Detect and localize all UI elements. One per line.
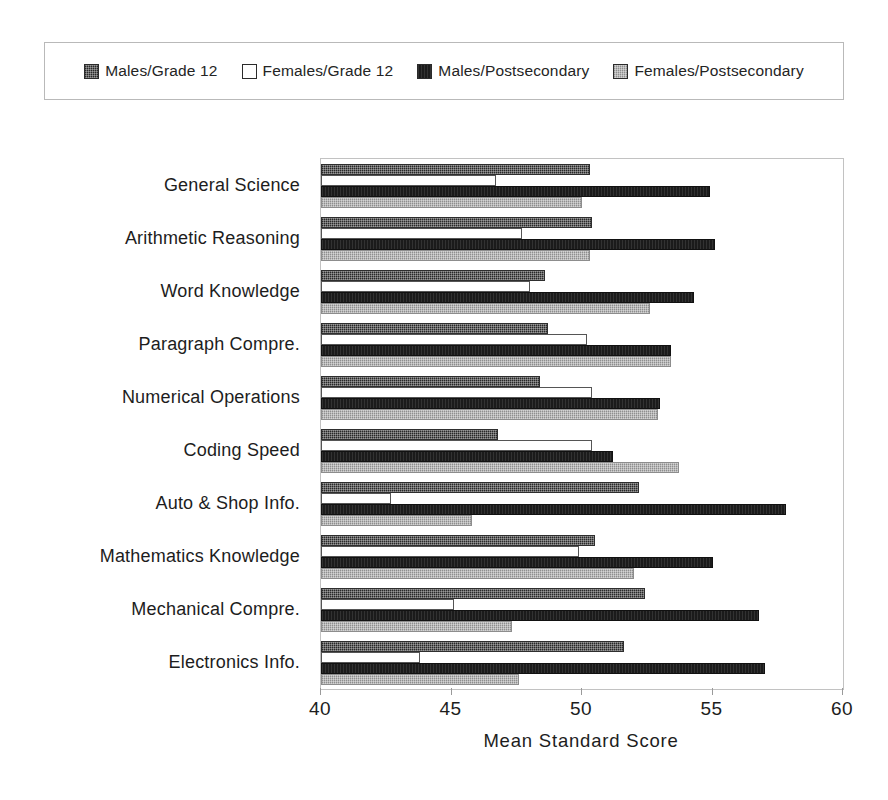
bar: [321, 482, 639, 493]
category-label: Coding Speed: [184, 439, 301, 460]
bar: [321, 250, 590, 261]
bar: [321, 281, 530, 292]
category-label: Electronics Info.: [169, 651, 300, 672]
tick-mark: [581, 688, 582, 695]
bar: [321, 535, 595, 546]
bar: [321, 164, 590, 175]
bar: [321, 186, 710, 197]
category-label: Word Knowledge: [160, 280, 300, 301]
bar: [321, 292, 694, 303]
tick-label: 45: [439, 698, 461, 720]
bar-chart: General ScienceArithmetic ReasoningWord …: [0, 0, 888, 800]
tick-label: 60: [831, 698, 853, 720]
tick-mark: [712, 688, 713, 695]
bar: [321, 451, 613, 462]
tick-mark: [842, 688, 843, 695]
category-label: Mechanical Compre.: [131, 598, 300, 619]
bar: [321, 599, 454, 610]
bar: [321, 568, 634, 579]
bar: [321, 376, 540, 387]
bar: [321, 462, 679, 473]
plot-bars: [321, 159, 843, 689]
bar: [321, 610, 759, 621]
bar: [321, 323, 548, 334]
category-label: Arithmetic Reasoning: [125, 227, 300, 248]
bar-group: [321, 583, 843, 636]
bar-group: [321, 159, 843, 212]
bar-group: [321, 212, 843, 265]
bar: [321, 493, 391, 504]
category-axis-labels: General ScienceArithmetic ReasoningWord …: [0, 158, 310, 688]
bar: [321, 504, 786, 515]
bar: [321, 197, 582, 208]
bar-group: [321, 530, 843, 583]
bar: [321, 621, 512, 632]
bar-group: [321, 636, 843, 689]
plot-frame: [320, 158, 844, 690]
bar: [321, 175, 496, 186]
x-axis-ticks: 4045505560: [320, 688, 842, 734]
bar: [321, 387, 592, 398]
bar-group: [321, 477, 843, 530]
bar: [321, 270, 545, 281]
bar: [321, 429, 498, 440]
category-label: Paragraph Compre.: [139, 333, 300, 354]
bar-group: [321, 265, 843, 318]
x-axis-title: Mean Standard Score: [320, 730, 842, 752]
bar: [321, 557, 713, 568]
bar: [321, 641, 624, 652]
bar: [321, 515, 472, 526]
tick-mark: [451, 688, 452, 695]
bar: [321, 440, 592, 451]
bar: [321, 334, 587, 345]
bar-group: [321, 318, 843, 371]
tick-label: 55: [700, 698, 722, 720]
tick-label: 50: [570, 698, 592, 720]
bar: [321, 345, 671, 356]
bar: [321, 546, 579, 557]
category-label: Numerical Operations: [122, 386, 300, 407]
bar: [321, 398, 660, 409]
bar-group: [321, 371, 843, 424]
category-label: Auto & Shop Info.: [156, 492, 301, 513]
bar: [321, 356, 671, 367]
bar: [321, 228, 522, 239]
category-label: Mathematics Knowledge: [100, 545, 300, 566]
bar: [321, 674, 519, 685]
tick-label: 40: [309, 698, 331, 720]
bar: [321, 588, 645, 599]
bar: [321, 217, 592, 228]
bar: [321, 303, 650, 314]
bar: [321, 663, 765, 674]
bar: [321, 409, 658, 420]
category-label: General Science: [164, 174, 300, 195]
bar: [321, 652, 420, 663]
bar: [321, 239, 715, 250]
tick-mark: [320, 688, 321, 695]
bar-group: [321, 424, 843, 477]
